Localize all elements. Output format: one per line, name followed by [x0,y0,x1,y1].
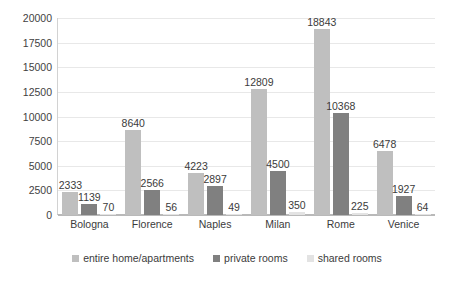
legend-label: shared rooms [318,252,382,264]
legend-swatch-icon [213,255,220,262]
x-axis-tick-label: Venice [372,218,435,231]
x-axis-tick-label: Bologna [58,218,121,231]
chart-legend: entire home/apartmentsprivate roomsshare… [0,249,454,267]
bar-group: 6478192764 [372,18,435,215]
bar-chart: 02500500075001000012500150001750020000 2… [0,0,454,292]
x-axis: BolognaFlorenceNaplesMilanRomeVenice [58,218,435,234]
bar-value-label: 1927 [384,184,424,195]
bar-group: 8640256656 [121,18,184,215]
legend-item[interactable]: entire home/apartments [72,252,194,264]
legend-label: entire home/apartments [83,252,194,264]
y-axis-tick-label: 20000 [0,13,52,24]
bar [251,89,267,215]
bar-group: 128094500350 [247,18,310,215]
bar-value-label: 6478 [365,139,405,150]
bar-value-label: 18843 [302,17,342,28]
bar [352,213,368,215]
y-axis-tick-label: 12500 [0,87,52,98]
x-axis-tick-label: Naples [184,218,247,231]
bar [415,214,431,216]
bar [163,214,179,216]
bar [226,214,242,216]
bar-group: 2333113970 [58,18,121,215]
bar-group: 1884310368225 [309,18,372,215]
gridline [58,215,435,216]
bar [289,212,305,215]
bar-value-label: 10368 [321,101,361,112]
bar-value-label: 2566 [132,178,172,189]
legend-swatch-icon [307,255,314,262]
bar-value-label: 4500 [258,159,298,170]
y-axis-tick-label: 7500 [0,136,52,147]
bar-value-label: 4223 [176,161,216,172]
bar-group: 4223289749 [184,18,247,215]
y-axis-tick-label: 15000 [0,62,52,73]
legend-swatch-icon [72,255,79,262]
x-axis-tick-label: Rome [309,218,372,231]
x-axis-tick-label: Florence [121,218,184,231]
bar [125,130,141,215]
y-axis-tick-label: 0 [0,210,52,221]
bar-value-label: 2333 [50,180,90,191]
bar-value-label: 2897 [195,174,235,185]
y-axis-tick-label: 10000 [0,111,52,122]
scan-text-artifact [8,274,446,288]
bar [333,113,349,215]
bar-groups: 2333113970864025665642232897491280945003… [58,18,435,215]
x-axis-tick-label: Milan [247,218,310,231]
y-axis: 02500500075001000012500150001750020000 [0,18,52,215]
bar-value-label: 12809 [239,77,279,88]
y-axis-tick-label: 5000 [0,161,52,172]
legend-item[interactable]: shared rooms [307,252,382,264]
y-axis-tick-label: 2500 [0,185,52,196]
bar-value-label: 8640 [113,118,153,129]
bar-value-label: 64 [403,202,443,213]
y-axis-tick-label: 17500 [0,37,52,48]
bar [314,29,330,215]
legend-label: private rooms [224,252,288,264]
legend-item[interactable]: private rooms [213,252,288,264]
bar [100,214,116,216]
